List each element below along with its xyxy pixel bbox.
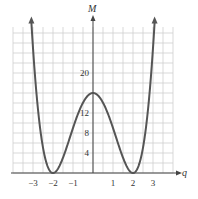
y-tick-label: 20 <box>80 68 90 78</box>
arrow-up-icon <box>152 16 158 23</box>
x-tick-label: −1 <box>68 178 78 188</box>
x-tick-label: 2 <box>131 178 136 188</box>
y-axis-label: M <box>87 3 97 14</box>
y-tick-label: 8 <box>85 128 90 138</box>
x-tick-label: −2 <box>48 178 58 188</box>
x-tick-label: 3 <box>151 178 156 188</box>
x-tick-label: −3 <box>28 178 38 188</box>
x-axis-label: q <box>182 167 187 178</box>
arrow-up-icon <box>28 16 34 23</box>
x-tick-label: 1 <box>111 178 116 188</box>
y-tick-label: 12 <box>80 108 89 118</box>
y-tick-label: 4 <box>85 148 90 158</box>
chart: −3−2−1123481220 q M <box>0 0 198 199</box>
y-axis-arrow-icon <box>91 15 96 21</box>
